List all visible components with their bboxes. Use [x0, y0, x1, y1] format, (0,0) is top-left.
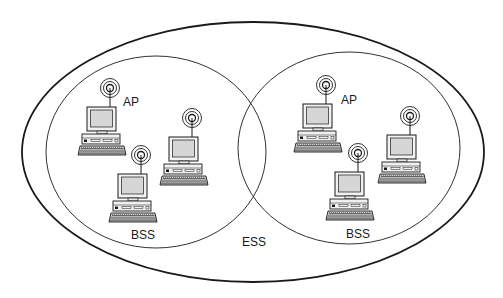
- ap-label: AP: [123, 95, 139, 109]
- station-workstation-icon: [160, 109, 208, 186]
- access-point-workstation-icon: [294, 76, 342, 153]
- bss-left: AP BSS: [78, 79, 208, 243]
- bss-right: AP BSS: [294, 76, 426, 242]
- bss-label: BSS: [346, 227, 370, 241]
- station-workstation-icon: [109, 146, 157, 223]
- station-workstation-icon: [378, 107, 426, 184]
- station-workstation-icon: [326, 144, 374, 221]
- ess-label: ESS: [242, 235, 266, 249]
- bss-label: BSS: [131, 228, 155, 242]
- ap-label: AP: [341, 93, 357, 107]
- ess-diagram: AP BSS AP BSS ESS: [0, 0, 503, 298]
- access-point-workstation-icon: [78, 79, 126, 156]
